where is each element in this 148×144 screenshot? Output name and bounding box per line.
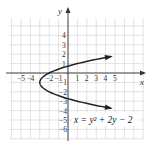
svg-text:−6: −6 bbox=[59, 125, 67, 134]
svg-text:5: 5 bbox=[113, 74, 117, 83]
svg-text:−5: −5 bbox=[17, 74, 25, 83]
svg-text:2: 2 bbox=[85, 74, 89, 83]
curve-arrow-icon bbox=[105, 105, 113, 110]
svg-text:4: 4 bbox=[62, 31, 66, 40]
svg-text:3: 3 bbox=[62, 41, 66, 50]
equation-label: x = y² + 2y − 2 bbox=[73, 115, 133, 125]
svg-text:1: 1 bbox=[75, 74, 79, 83]
curve-arrow-icon bbox=[105, 55, 113, 60]
svg-text:2: 2 bbox=[62, 50, 66, 59]
parabola-chart: x y −5−4−2−1123454321−1−2−3−4−5−6 x = y²… bbox=[0, 0, 148, 144]
svg-text:−1: −1 bbox=[59, 78, 67, 87]
y-axis-label: y bbox=[57, 6, 62, 16]
svg-text:−2: −2 bbox=[59, 88, 67, 97]
svg-text:−4: −4 bbox=[26, 74, 34, 83]
y-axis-arrow-icon bbox=[66, 7, 71, 13]
svg-text:−4: −4 bbox=[59, 107, 67, 116]
svg-text:4: 4 bbox=[104, 74, 108, 83]
x-axis-label: x bbox=[139, 77, 144, 87]
svg-text:3: 3 bbox=[94, 74, 98, 83]
svg-text:−5: −5 bbox=[59, 116, 67, 125]
